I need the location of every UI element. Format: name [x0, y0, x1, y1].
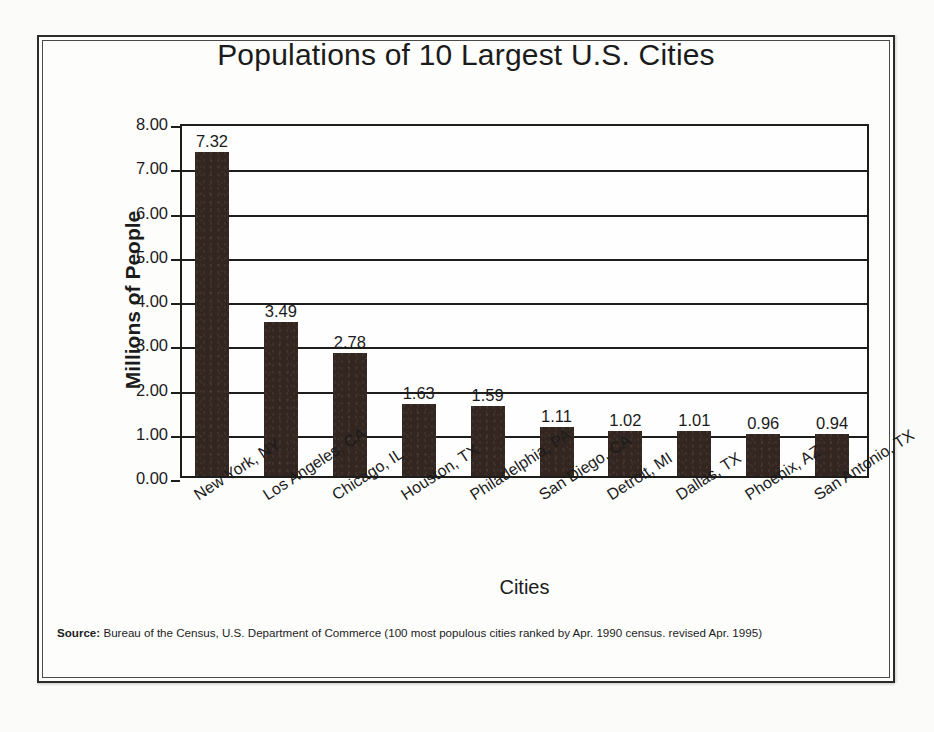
- gridline: [182, 215, 867, 217]
- source-label: Source:: [57, 626, 100, 639]
- y-axis-tick-label: 5.00: [106, 247, 168, 266]
- y-axis-tick: [171, 215, 180, 217]
- bar-value-label: 1.63: [384, 384, 454, 403]
- scan-edge-shadow-right: [895, 35, 898, 683]
- gridline: [182, 259, 867, 261]
- source-text: Bureau of the Census, U.S. Department of…: [103, 626, 762, 639]
- plot-area: 7.323.492.781.631.591.111.021.010.960.94: [180, 124, 869, 478]
- bar-value-label: 0.96: [728, 414, 798, 433]
- scanned-page: Populations of 10 Largest U.S. Cities Mi…: [0, 0, 934, 732]
- bar: [471, 406, 505, 476]
- y-axis-tick-label: 7.00: [106, 159, 168, 178]
- bar-value-label: 0.94: [797, 414, 867, 433]
- scan-edge-shadow-bottom: [37, 683, 895, 686]
- y-axis-tick-label: 6.00: [106, 203, 168, 222]
- y-axis-tick: [171, 126, 180, 128]
- bar-value-label: 1.01: [659, 411, 729, 430]
- y-axis-tick-label: 4.00: [106, 292, 168, 311]
- x-axis-title: Cities: [180, 576, 869, 599]
- y-axis-tick: [171, 436, 180, 438]
- y-axis-tick: [171, 170, 180, 172]
- bar: [195, 152, 229, 476]
- y-axis-tick-label: 1.00: [106, 424, 168, 443]
- bar-value-label: 3.49: [246, 302, 316, 321]
- y-axis-tick-label: 3.00: [106, 336, 168, 355]
- y-axis-tick: [171, 303, 180, 305]
- chart-title: Populations of 10 Largest U.S. Cities: [42, 38, 890, 72]
- y-axis-tick-label: 0.00: [106, 469, 168, 488]
- y-axis-tick: [171, 347, 180, 349]
- y-axis-tick: [171, 392, 180, 394]
- source-note: Source: Bureau of the Census, U.S. Depar…: [57, 624, 877, 642]
- gridline: [182, 170, 867, 172]
- y-axis-tick-label: 2.00: [106, 380, 168, 399]
- bar-value-label: 1.02: [590, 411, 660, 430]
- y-axis-tick: [171, 480, 180, 482]
- bar: [402, 404, 436, 476]
- y-axis-tick-label: 8.00: [106, 115, 168, 134]
- bar-value-label: 1.59: [453, 386, 523, 405]
- bar-value-label: 7.32: [177, 132, 247, 151]
- y-axis-tick: [171, 259, 180, 261]
- bar-value-label: 2.78: [315, 333, 385, 352]
- bar-value-label: 1.11: [522, 407, 592, 426]
